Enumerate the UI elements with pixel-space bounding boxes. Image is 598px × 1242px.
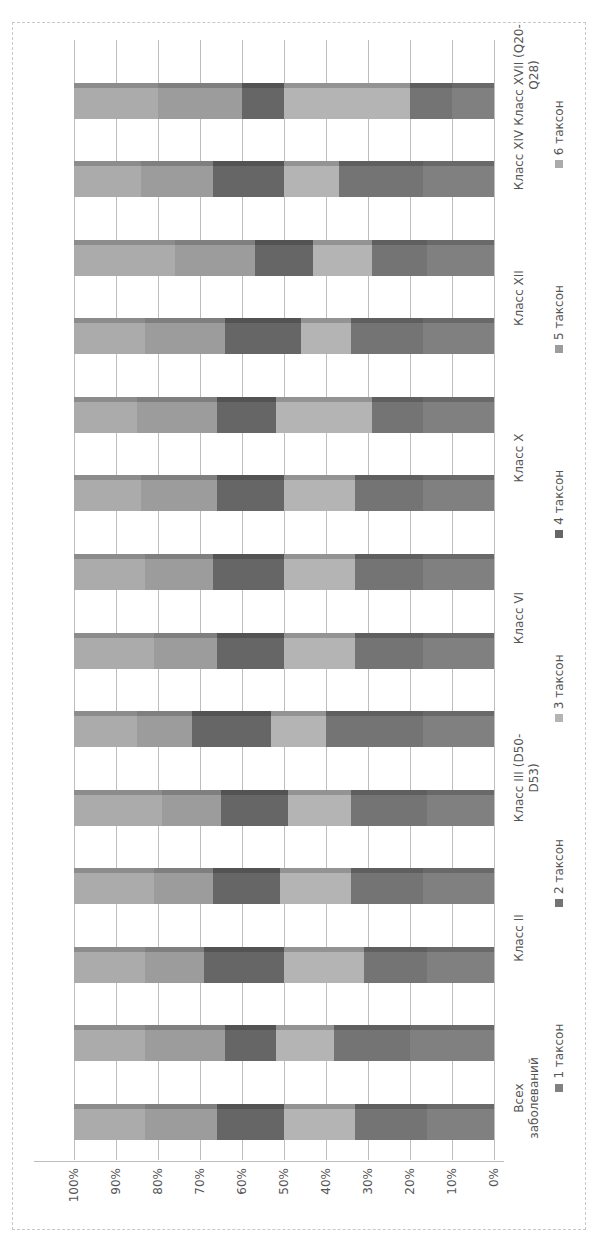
chart-area: 0%10%20%30%40%50%60%70%80%90%100% Всех з… [12,22,586,1230]
bar-segment [364,947,427,983]
stacked-bar [74,83,494,119]
bar-segment [339,161,423,197]
category-label-all: Всех заболеваний [512,1028,542,1168]
stacked-bar [74,711,494,747]
bar-segment [423,397,494,433]
bar-segment [355,475,422,511]
bar-segment [217,475,284,511]
bar-segment [74,868,154,904]
legend-swatch-icon [555,1084,563,1092]
bar-segment [284,554,355,590]
category-label-line: Класс X [512,388,527,528]
bar-segment [334,1025,410,1061]
bar-segment [351,868,422,904]
y-tick-label: 0% [487,1168,501,1212]
category-label-line: Всех [512,1028,527,1168]
y-tick-label: 10% [445,1168,459,1212]
category-label-line: Класс II [512,868,527,1008]
bar-segment [154,633,217,669]
legend-item: 4 таксон [552,470,566,538]
bar-segment [192,711,272,747]
bar-segment [355,633,422,669]
bar-segment [427,1104,494,1140]
gridline [284,40,285,1160]
bar-segment [288,790,351,826]
bar-segment [145,1104,216,1140]
bar-segment [158,83,242,119]
bar-segment [137,397,217,433]
bar-segment [145,318,225,354]
bar-segment [74,790,162,826]
bar-segment [145,947,204,983]
legend-label: 4 таксон [552,470,566,525]
category-label-line: Класс XVII (Q20- [512,5,527,145]
bar-segment [74,161,141,197]
legend-label: 5 таксон [552,285,566,340]
bar-segment [326,711,423,747]
bar-segment [74,1104,145,1140]
bar-segment [284,1104,355,1140]
bar-segment [284,83,410,119]
bar-segment [351,790,427,826]
bar-segment [410,83,452,119]
y-tick-label: 60% [235,1168,249,1212]
bar-segment [410,1025,494,1061]
legend-item: 2 таксон [552,839,566,907]
plot-area [34,40,504,1160]
bar-segment [427,947,494,983]
stacked-bar [74,240,494,276]
stacked-bar [74,947,494,983]
y-axis-line [34,1161,504,1162]
y-tick-label: 20% [403,1168,417,1212]
bar-segment [372,397,422,433]
legend-swatch-icon [555,714,563,722]
category-label-class-xvii: Класс XVII (Q20- Q28) [512,5,542,145]
bar-segment [427,240,494,276]
bar-segment [74,240,175,276]
legend-swatch-icon [555,530,563,538]
legend-label: 3 таксон [552,654,566,709]
stacked-bar [74,397,494,433]
bar-segment [74,947,145,983]
bar-segment [175,240,255,276]
bar-segment [423,633,494,669]
gridline [326,40,327,1160]
category-label-class-x: Класс X [512,388,527,528]
bar-segment [137,711,192,747]
bar-segment [271,711,326,747]
y-tick-label: 50% [277,1168,291,1212]
category-label-class-xii: Класс XII [512,228,527,368]
y-tick-label: 80% [151,1168,165,1212]
bar-segment [225,318,301,354]
bar-segment [423,554,494,590]
bar-segment [276,1025,335,1061]
bar-segment [225,1025,275,1061]
gridline [368,40,369,1160]
y-tick-label: 40% [319,1168,333,1212]
bar-segment [301,318,351,354]
legend-label: 1 таксон [552,1024,566,1079]
bar-segment [355,1104,426,1140]
category-label-line: заболеваний [527,1028,542,1168]
bar-segment [242,83,284,119]
bar-segment [284,633,355,669]
stacked-bar [74,554,494,590]
bar-segment [74,318,145,354]
legend-item: 1 таксон [552,1024,566,1092]
bar-segment [452,83,494,119]
bar-segment [284,161,339,197]
bar-segment [423,711,494,747]
gridline [116,40,117,1160]
bar-segment [217,633,284,669]
category-label-class-ii: Класс II [512,868,527,1008]
stacked-bar [74,1025,494,1061]
bar-segment [276,397,373,433]
bar-segment [145,1025,225,1061]
legend-item: 3 таксон [552,654,566,722]
legend-swatch-icon [555,160,563,168]
category-label-line: Класс III (D50- [512,708,527,848]
legend-swatch-icon [555,899,563,907]
category-label-class-iii: Класс III (D50- D53) [512,708,542,848]
bar-segment [213,161,284,197]
bar-segment [372,240,427,276]
